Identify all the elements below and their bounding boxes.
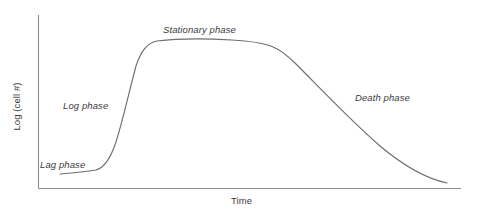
growth-curve-figure: Lag phase Log phase Stationary phase Dea… [0,0,482,219]
growth-curve-line [60,39,447,183]
log-phase-label: Log phase [63,100,108,111]
lag-phase-label: Lag phase [40,159,85,170]
death-phase-label: Death phase [355,92,410,103]
stationary-phase-label: Stationary phase [163,24,236,35]
x-axis-label: Time [231,195,252,206]
y-axis-label: Log (cell #) [11,72,22,142]
